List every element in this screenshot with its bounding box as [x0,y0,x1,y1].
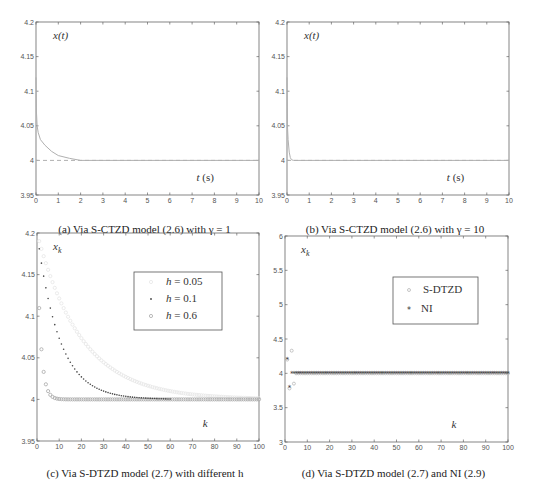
x-tick-label: 4 [123,197,127,204]
data-point [72,365,74,367]
data-point [47,390,50,393]
y-axis-label: xk [52,240,62,255]
y-tick-label: 4.1 [25,313,35,320]
caption: (c) Via S-DTZD model (2.7) with differen… [47,467,244,480]
caption: (b) Via S-CTZD model (2.6) with γ = 10 [306,223,485,236]
data-point [75,330,78,333]
y-tick-label: 4 [279,370,283,377]
legend-label: h = 0.6 [166,309,197,321]
x-tick-label: 5 [396,197,400,204]
axes-frame [37,233,259,441]
series-line [287,77,509,160]
data-point [152,398,154,400]
data-point [105,391,107,393]
x-tick-label: 10 [55,443,63,450]
x-tick-label: 5 [146,197,150,204]
legend-value: = 0.6 [172,309,198,321]
data-point [101,389,103,391]
x-tick-label: 80 [460,444,468,451]
data-point [107,392,109,394]
x-tick-label: 0 [285,197,289,204]
data-point [89,384,91,386]
data-point [163,398,165,400]
legend-label: h = 0.1 [166,292,197,304]
data-point [94,386,96,388]
x-tick-label: 50 [393,444,401,451]
y-axis-label: x(t) [303,29,320,42]
x-tick-label: 50 [144,443,152,450]
data-point [42,370,45,373]
legend-value: = 0.05 [172,275,203,287]
x-axis-label: t (s) [197,171,215,184]
legend-value: = 0.1 [172,292,197,304]
data-point [64,311,67,314]
y-tick-label: 5 [279,301,283,308]
data-point [63,348,65,350]
data-point [76,371,78,373]
data-point [96,387,98,389]
data-point [82,340,85,343]
x-tick-label: 20 [78,443,86,450]
data-point [156,398,158,400]
y-axis-label: x(t) [52,29,69,42]
data-point [134,397,136,399]
data-point [123,395,125,397]
y-tick-label: 4.2 [24,19,34,26]
x-axis-label: t (s) [447,171,465,184]
y-tick-label: 4.05 [20,122,34,129]
data-point [51,281,54,284]
data-point: * [285,356,289,364]
data-point [116,394,118,396]
caption: (a) Via S-CTZD model (2.6) with γ = 1 [58,223,230,236]
data-point [52,316,54,318]
data-point [80,337,83,340]
x-tick-label: 0 [283,444,287,451]
data-point [55,292,58,295]
data-point [44,262,47,265]
data-point [43,275,45,277]
x-tick-label: 100 [253,443,265,450]
legend-marker [150,298,152,300]
x-tick-label: 8 [212,197,216,204]
x-tick-label: 90 [233,443,241,450]
y-tick-label: 4 [281,157,285,164]
data-point [42,255,45,258]
legend-label: h = 0.05 [166,275,203,287]
x-tick-label: 3 [101,197,105,204]
y-tick-label: 4 [31,396,35,403]
chart-c: 01020304050607080901003.9544.054.14.154.… [21,230,265,481]
data-point [114,394,116,396]
data-point [53,286,56,289]
y-tick-label: 4.5 [273,336,283,343]
data-point [47,298,49,300]
y-axis-label: xk [300,243,310,258]
x-axis-label: k [452,418,458,430]
x-tick-label: 3 [352,197,356,204]
data-point: * [288,384,292,392]
axes-frame [36,22,259,195]
data-point [56,331,58,333]
data-point [112,393,114,395]
data-point [69,319,72,322]
data-point [38,306,41,309]
y-tick-label: 3.95 [271,192,285,199]
caption: (d) Via S-DTZD model (2.7) and NI (2.9) [302,467,486,480]
axes-frame [285,236,508,442]
data-point [38,240,41,243]
data-point [74,368,76,370]
legend-label: S-DTZD [423,283,462,295]
data-point [40,247,43,250]
x-tick-label: 6 [168,197,172,204]
data-point [41,262,43,264]
x-tick-label: 60 [415,444,423,451]
x-tick-label: 0 [34,197,38,204]
y-tick-label: 3 [279,439,283,446]
data-point [54,324,56,326]
data-point [118,394,120,396]
x-tick-label: 10 [505,197,513,204]
x-tick-label: 8 [463,197,467,204]
x-tick-label: 30 [348,444,356,451]
data-point [290,349,293,352]
subscript-k: k [306,249,310,258]
x-tick-label: 70 [437,444,445,451]
